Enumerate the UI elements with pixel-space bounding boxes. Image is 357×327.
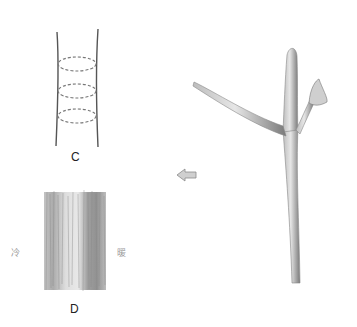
left-arrow-icon bbox=[177, 169, 196, 181]
label-warm: 暖 bbox=[117, 246, 126, 259]
tube-diagram-c bbox=[56, 29, 98, 147]
panel-label-c: C bbox=[71, 150, 80, 164]
shading-block-d bbox=[44, 190, 106, 291]
panel-label-d: D bbox=[70, 302, 79, 316]
illustration-canvas bbox=[0, 0, 357, 327]
label-cold: 冷 bbox=[11, 246, 20, 259]
branch-sketch bbox=[193, 48, 327, 283]
